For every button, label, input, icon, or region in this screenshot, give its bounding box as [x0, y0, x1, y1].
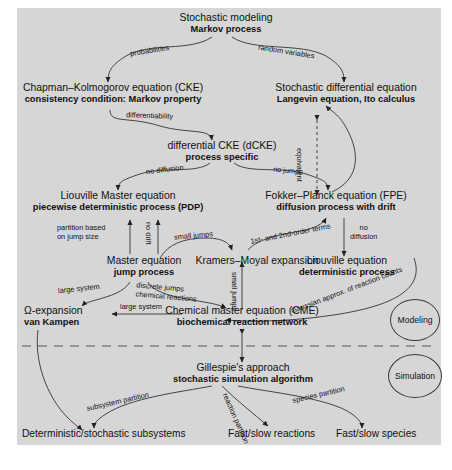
node-subtitle: consistency condition: Markov property: [8, 94, 218, 104]
node-title: Fokker–Planck equation (FPE): [250, 190, 422, 202]
node-subtitle: Langevin equation, Ito calculus: [258, 94, 434, 104]
node-title: Stochastic modeling: [146, 12, 306, 24]
node-sde: Stochastic differential equation Langevi…: [258, 82, 434, 104]
node-title: Ω-expansion: [24, 305, 110, 317]
node-subtitle: piecewise deterministic process (PDP): [22, 202, 214, 212]
no-diffusion-line2: diffusion: [350, 232, 377, 241]
section-badge-modeling: Modeling: [390, 299, 440, 341]
node-master-equation: Master equation jump process: [88, 255, 200, 277]
node-subtitle: jump process: [88, 267, 200, 277]
node-subtitle: process specific: [152, 152, 292, 162]
figure-root: Stochastic modeling Markov process Chapm…: [0, 0, 452, 470]
edge-label-no-drift: no drift: [143, 222, 152, 245]
edge-fpe-to-sde: [326, 106, 355, 192]
node-title: Liouville equation: [288, 255, 406, 267]
node-liouville-master: Liouville Master equation piecewise dete…: [22, 190, 214, 212]
node-subtitle: biochemical reaction network: [126, 317, 358, 327]
node-omega-expansion: Ω-expansion van Kampen: [24, 305, 110, 327]
edge-label-small-jumps-vertical: small jumps: [229, 272, 238, 311]
node-title: differential CKE (dCKE): [152, 140, 292, 152]
edge-label-no-diffusion-right: no diffusion: [350, 224, 377, 241]
edge-sm-to-sde: [232, 37, 344, 82]
node-title: Chapman–Kolmogorov equation (CKE): [8, 82, 218, 94]
node-fpe: Fokker–Planck equation (FPE) diffusion p…: [250, 190, 422, 212]
node-title: Liouville Master equation: [22, 190, 214, 202]
section-badge-simulation: Simulation: [388, 354, 442, 398]
node-cke: Chapman–Kolmogorov equation (CKE) consis…: [8, 82, 218, 104]
node-fast-slow-species: Fast/slow species: [336, 428, 416, 439]
edge-omega-to-detstoch: [37, 330, 82, 430]
edge-label-large-system-arrow: large system: [120, 303, 162, 312]
node-title: Master equation: [88, 255, 200, 267]
node-title: Stochastic differential equation: [258, 82, 434, 94]
node-stochastic-modeling: Stochastic modeling Markov process: [146, 12, 306, 34]
partition-based-line2: on jump size: [57, 232, 99, 241]
node-subtitle: diffusion process with drift: [250, 202, 422, 212]
node-subtitle: van Kampen: [24, 317, 110, 327]
node-subtitle: Markov process: [146, 24, 306, 34]
edge-label-partition-based: partition based on jump size: [57, 224, 105, 241]
modeling-label: Modeling: [398, 315, 433, 325]
node-det-stoch-subsystems: Deterministic/stochastic subsystems: [22, 428, 186, 439]
node-gillespie: Gillespie's approach stochastic simulati…: [140, 362, 346, 384]
node-subtitle: stochastic simulation algorithm: [140, 374, 346, 384]
simulation-label: Simulation: [395, 371, 435, 381]
edge-label-differentiability: differentiability: [126, 111, 173, 121]
node-dcke: differential CKE (dCKE) process specific: [152, 140, 292, 162]
node-title: Gillespie's approach: [140, 362, 346, 374]
